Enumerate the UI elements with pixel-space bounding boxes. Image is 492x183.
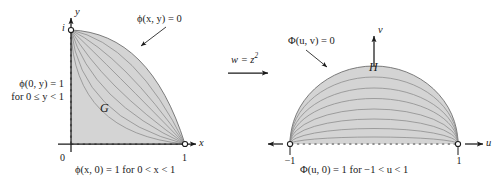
right-diagram bbox=[268, 36, 483, 155]
figure-canvas bbox=[0, 0, 492, 183]
mapping-label: w = z2 bbox=[231, 52, 258, 66]
left-tick-x-one: 1 bbox=[182, 152, 187, 164]
mapping-label-exponent: 2 bbox=[254, 52, 258, 60]
left-endpoint-y-i bbox=[68, 27, 73, 32]
left-side-condition-line2: for 0 ≤ y < 1 bbox=[4, 91, 64, 103]
region-g-label: G bbox=[100, 101, 109, 115]
region-h-fill bbox=[290, 66, 458, 144]
left-y-axis-label: y bbox=[75, 6, 80, 18]
right-top-condition: Φ(u, v) = 0 bbox=[288, 35, 335, 47]
right-endpoint-u-neg-one bbox=[287, 141, 292, 146]
right-bottom-condition: Φ(u, 0) = 1 for −1 < u < 1 bbox=[300, 164, 408, 176]
left-diagram bbox=[58, 18, 196, 152]
right-v-axis-label: v bbox=[378, 24, 383, 36]
left-top-condition: ϕ(x, y) = 0 bbox=[137, 13, 182, 25]
left-top-condition-leader bbox=[141, 27, 166, 46]
mapping-label-text: w = z bbox=[231, 54, 254, 65]
left-tick-origin: 0 bbox=[60, 152, 65, 164]
left-bottom-condition: ϕ(x, 0) = 1 for 0 < x < 1 bbox=[75, 164, 175, 176]
left-side-condition-line1: ϕ(0, y) = 1 bbox=[4, 78, 64, 90]
right-top-condition-leader bbox=[306, 50, 327, 67]
left-endpoint-x-one bbox=[182, 141, 187, 146]
left-x-axis-label: x bbox=[199, 137, 204, 149]
conformal-mapping-figure: x y i 0 1 G ϕ(x, y) = 0 ϕ(0, y) = 1 for … bbox=[0, 0, 492, 183]
right-tick-one-label: 1 bbox=[449, 155, 469, 167]
left-tick-i: i bbox=[62, 22, 65, 34]
right-endpoint-u-one bbox=[455, 141, 460, 146]
right-tick-neg-one-label: −1 bbox=[280, 155, 300, 167]
region-h-label: H bbox=[369, 60, 378, 74]
right-u-axis-label: u bbox=[486, 137, 491, 149]
